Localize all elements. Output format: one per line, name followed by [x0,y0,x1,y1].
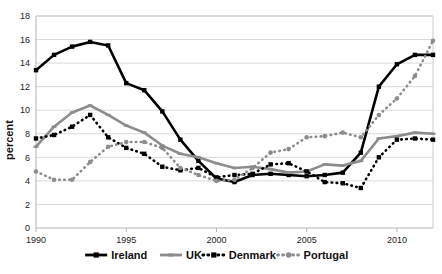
data-point-marker [142,152,146,156]
data-point-marker [196,156,201,158]
data-point-marker [431,38,436,43]
x-tick-label: 2000 [206,235,226,245]
data-point-marker [323,173,327,177]
data-point-marker [359,135,364,140]
data-point-marker [70,111,75,113]
data-point-marker [340,130,345,135]
data-point-marker [322,134,327,139]
data-point-marker [268,172,272,176]
legend-item-denmark[interactable]: Denmark [203,249,277,261]
data-point-marker [340,164,345,166]
legend-label: Denmark [229,249,277,261]
data-point-marker [106,114,111,116]
y-axis-title: percent [3,120,15,160]
data-point-marker [124,146,128,150]
data-point-marker [250,166,255,171]
data-point-marker [413,131,418,133]
data-point-marker [142,140,147,145]
data-point-marker [88,104,93,106]
data-point-marker [377,113,382,118]
data-point-marker [34,136,38,140]
data-point-marker [106,135,110,139]
data-point-marker [178,137,182,141]
data-point-marker [286,161,290,165]
legend-marker-swatch [94,252,99,257]
data-point-marker [34,68,38,72]
y-tick-label: 12 [20,82,30,92]
data-point-marker [413,136,417,140]
data-point-marker [160,165,164,169]
data-point-marker [395,62,399,66]
y-axis-title-text: percent [3,120,15,160]
y-tick-label: 8 [25,129,30,139]
data-point-marker [196,173,201,178]
y-tick-label: 6 [25,153,30,163]
data-point-marker [196,159,200,163]
data-point-marker [376,137,381,139]
data-point-marker [142,88,146,92]
data-point-marker [323,180,327,184]
data-point-marker [214,162,219,164]
x-tick-label: 1990 [26,235,46,245]
legend-item-portugal[interactable]: Portugal [278,249,349,261]
series-uk [34,104,436,174]
data-point-marker [52,133,56,137]
data-point-marker [359,150,363,154]
data-point-marker [34,169,39,174]
data-point-marker [52,126,57,128]
data-point-marker [88,160,93,165]
data-point-marker [160,146,165,151]
data-point-marker [178,166,183,171]
data-point-marker [196,166,200,170]
data-point-marker [413,74,418,79]
data-point-marker [70,125,74,129]
data-point-marker [395,137,399,141]
data-point-marker [232,177,237,182]
legend-item-ireland[interactable]: Ireland [85,249,147,261]
data-point-marker [377,155,381,159]
data-point-marker [268,168,273,170]
data-point-marker [358,160,363,162]
data-point-marker [52,53,56,57]
data-point-marker [395,96,400,101]
data-point-marker [431,53,435,57]
data-point-marker [34,146,39,148]
data-point-marker [431,137,435,141]
data-point-marker [88,113,92,117]
data-point-marker [341,170,345,174]
unemployment-line-chart: 024681012141618 19901995200020052010 per… [0,0,442,274]
data-point-marker [322,163,327,165]
x-axis-ticks: 19901995200020052010 [26,228,407,245]
data-point-marker [124,140,129,145]
x-tick-label: 2005 [297,235,317,245]
data-point-marker [142,131,147,133]
data-point-marker [413,53,417,57]
data-point-marker [70,177,75,182]
data-point-marker [106,144,111,149]
data-point-marker [88,40,92,44]
data-series-layer [34,38,436,190]
y-tick-label: 2 [25,200,30,210]
legend-label: Ireland [111,249,147,261]
data-point-marker [106,43,110,47]
data-point-marker [431,133,436,135]
y-tick-label: 14 [20,58,30,68]
data-point-marker [286,147,291,152]
data-point-marker [395,135,400,137]
data-point-marker [359,186,363,190]
data-point-marker [304,174,308,178]
data-point-marker [268,162,272,166]
data-point-marker [214,179,219,184]
data-point-marker [250,172,254,176]
data-point-marker [70,44,74,48]
data-point-marker [160,109,164,113]
data-point-marker [304,135,309,140]
data-point-marker [124,124,129,126]
data-point-marker [232,167,237,169]
x-tick-label: 2010 [387,235,407,245]
y-axis-ticks: 024681012141618 [20,11,30,233]
chart-legend: IrelandUKDenmarkPortugal [85,249,348,261]
legend-item-uk[interactable]: UK [160,249,202,261]
data-point-marker [304,169,308,173]
data-point-marker [268,150,273,155]
